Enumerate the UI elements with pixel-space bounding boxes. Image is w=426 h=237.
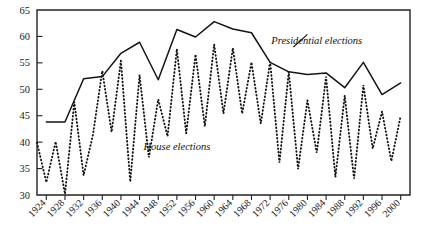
x-tick-label-group-2000: 2000 [380, 197, 402, 219]
presidential-label: Presidential elections [270, 35, 362, 46]
x-tick-label-1988: 1988 [324, 197, 346, 219]
y-tick-label-50: 50 [20, 84, 31, 95]
x-tick-label-1968: 1968 [231, 197, 253, 219]
x-tick-label-group-1972: 1972 [250, 197, 272, 219]
x-tick-label-1976: 1976 [268, 197, 290, 219]
x-tick-label-group-1928: 1928 [44, 197, 66, 219]
x-tick-label-group-1932: 1932 [63, 197, 85, 219]
x-axis-tick-labels: 1924192819321936194019441948195219561960… [26, 197, 402, 219]
y-tick-label-35: 35 [20, 163, 31, 174]
x-tick-label-2000: 2000 [380, 197, 402, 219]
x-tick-label-1960: 1960 [194, 197, 216, 219]
y-tick-label-60: 60 [20, 31, 31, 42]
x-tick-label-group-1968: 1968 [231, 197, 253, 219]
x-tick-label-group-1960: 1960 [194, 197, 216, 219]
x-tick-label-1972: 1972 [250, 197, 272, 219]
x-tick-label-group-1996: 1996 [362, 197, 384, 219]
x-tick-label-1984: 1984 [306, 197, 328, 219]
x-tick-label-1996: 1996 [362, 197, 384, 219]
y-axis-tick-labels: 3035404550556065 [20, 5, 31, 201]
x-tick-label-1956: 1956 [175, 197, 197, 219]
y-tick-label-55: 55 [20, 57, 31, 68]
x-tick-label-group-1948: 1948 [138, 197, 160, 219]
y-tick-label-65: 65 [20, 5, 31, 16]
x-tick-label-1964: 1964 [212, 197, 234, 219]
series-line-house-elections [37, 44, 401, 194]
x-tick-label-group-1952: 1952 [156, 197, 178, 219]
x-tick-label-1940: 1940 [100, 197, 122, 219]
x-tick-label-group-1992: 1992 [343, 197, 365, 219]
x-tick-label-group-1944: 1944 [119, 197, 141, 219]
x-tick-label-group-1988: 1988 [324, 197, 346, 219]
election-turnout-chart: 3035404550556065 19241928193219361940194… [0, 0, 426, 237]
series-annotations: Presidential electionsHouse elections [142, 34, 362, 151]
x-tick-label-group-1980: 1980 [287, 197, 309, 219]
x-tick-label-1992: 1992 [343, 197, 365, 219]
tick-marks [37, 36, 401, 200]
x-tick-label-1932: 1932 [63, 197, 85, 219]
y-tick-label-45: 45 [20, 110, 31, 121]
x-tick-label-1936: 1936 [82, 197, 104, 219]
x-tick-label-1928: 1928 [44, 197, 66, 219]
x-tick-label-group-1984: 1984 [306, 197, 328, 219]
x-tick-label-1980: 1980 [287, 197, 309, 219]
x-tick-label-group-1976: 1976 [268, 197, 290, 219]
x-tick-label-group-1936: 1936 [82, 197, 104, 219]
x-tick-label-group-1940: 1940 [100, 197, 122, 219]
x-tick-label-group-1964: 1964 [212, 197, 234, 219]
house-label: House elections [142, 141, 210, 152]
x-tick-label-1948: 1948 [138, 197, 160, 219]
x-tick-label-1944: 1944 [119, 197, 141, 219]
y-tick-label-30: 30 [20, 190, 31, 201]
chart-figure: 3035404550556065 19241928193219361940194… [0, 0, 426, 237]
x-tick-label-1952: 1952 [156, 197, 178, 219]
data-series [37, 22, 401, 194]
y-tick-label-40: 40 [20, 137, 31, 148]
x-tick-label-group-1956: 1956 [175, 197, 197, 219]
